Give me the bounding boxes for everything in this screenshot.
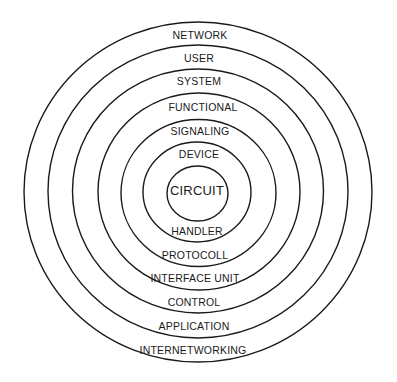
concentric-layer-diagram: NETWORKUSERSYSTEMFUNCTIONALSIGNALINGDEVI… [0, 0, 397, 382]
label-network: NETWORK [172, 29, 227, 41]
label-device: DEVICE [179, 148, 219, 160]
label-application: APPLICATION [159, 320, 230, 332]
label-protocoll: PROTOCOLL [162, 249, 228, 261]
label-system: SYSTEM [177, 75, 221, 87]
labels-group: NETWORKUSERSYSTEMFUNCTIONALSIGNALINGDEVI… [140, 29, 247, 356]
label-user: USER [184, 52, 214, 64]
label-control: CONTROL [168, 296, 221, 308]
label-functional: FUNCTIONAL [168, 101, 237, 113]
label-circuit: CIRCUIT [170, 183, 224, 198]
label-handler: HANDLER [171, 225, 223, 237]
label-interface-unit: INTERFACE UNIT [150, 272, 240, 284]
label-signaling: SIGNALING [171, 125, 230, 137]
label-internetworking: INTERNETWORKING [140, 344, 247, 356]
